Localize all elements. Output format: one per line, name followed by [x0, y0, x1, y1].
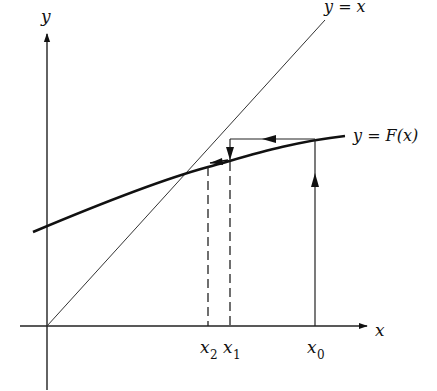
tick-x2: x 2: [200, 337, 218, 362]
arrow-up-icon: [311, 173, 319, 187]
tick-x1: x 1: [223, 337, 241, 362]
F-curve: y = F(x): [33, 126, 418, 232]
svg-text:x: x: [223, 337, 233, 357]
x1-vertical: [226, 139, 234, 326]
y-axis: y: [40, 6, 51, 390]
arrow-left-small-icon: [210, 158, 223, 165]
svg-text:0: 0: [317, 348, 325, 362]
fixed-point-diagram: y x y = x y = F(x) x 2: [0, 0, 437, 391]
x-axis-label: x: [375, 320, 385, 340]
svg-text:2: 2: [210, 348, 218, 362]
identity-line: y = x: [47, 0, 366, 326]
svg-text:x: x: [200, 337, 210, 357]
identity-line-label: y = x: [323, 0, 366, 16]
F-curve-label: y = F(x): [352, 126, 418, 145]
svg-text:1: 1: [233, 348, 241, 362]
y-axis-label: y: [40, 6, 51, 26]
arrow-down-icon: [226, 147, 234, 160]
tick-x0: x 0: [307, 337, 325, 362]
x0-vertical: [311, 139, 319, 326]
svg-text:x: x: [307, 337, 317, 357]
arrow-left-icon: [262, 135, 276, 143]
